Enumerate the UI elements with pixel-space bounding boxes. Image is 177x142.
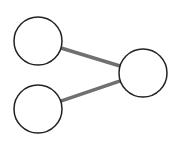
edges-layer [61, 48, 121, 101]
node-right [119, 49, 167, 97]
node-bottom-left [14, 85, 62, 133]
nodes-layer [14, 17, 167, 133]
edge-top-left-to-right [61, 48, 120, 66]
graph-diagram [0, 0, 177, 142]
edge-bottom-left-to-right [61, 81, 121, 101]
node-top-left [14, 17, 62, 65]
